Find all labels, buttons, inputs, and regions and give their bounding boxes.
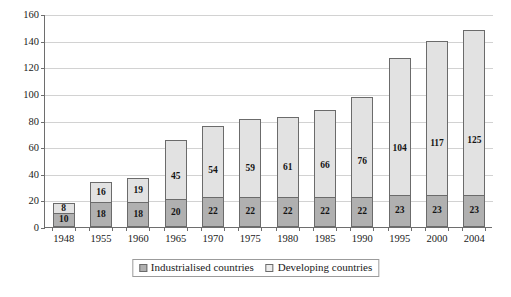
bar-group[interactable]: 76221990 — [351, 97, 373, 227]
bar-value-label: 23 — [395, 206, 405, 216]
y-axis-tick-label: 60 — [29, 143, 40, 154]
bar-segment-industrialised[interactable]: 22 — [351, 198, 373, 227]
x-axis-tick — [201, 227, 202, 231]
y-axis-tick-label: 80 — [29, 116, 40, 127]
legend-item[interactable]: Developing countries — [266, 262, 372, 273]
bar-value-label: 45 — [171, 172, 181, 182]
bar-segment-developing[interactable]: 16 — [90, 182, 112, 203]
bar-group[interactable]: 8101948 — [53, 203, 75, 227]
x-axis-tick — [462, 227, 463, 231]
bar-segment-industrialised[interactable]: 18 — [127, 203, 149, 227]
bar-segment-developing[interactable]: 8 — [53, 203, 75, 214]
bar-value-label: 20 — [171, 208, 181, 218]
bar-group[interactable]: 16181955 — [90, 182, 112, 227]
chart-legend: Industrialised countriesDeveloping count… — [132, 259, 379, 277]
x-axis-tick — [149, 227, 150, 231]
bar-segment-industrialised[interactable]: 10 — [53, 214, 75, 227]
x-axis-tick — [187, 227, 188, 231]
bar-segment-developing[interactable]: 76 — [351, 97, 373, 198]
bar-segment-developing[interactable]: 66 — [314, 110, 336, 198]
bar-group[interactable]: 59221975 — [239, 119, 261, 227]
bar-segment-developing[interactable]: 117 — [426, 41, 448, 197]
x-axis-tick — [313, 227, 314, 231]
bar-value-label: 117 — [430, 139, 444, 149]
bar-segment-developing[interactable]: 61 — [277, 117, 299, 198]
bar-segment-industrialised[interactable]: 22 — [314, 198, 336, 227]
bar-segment-developing[interactable]: 54 — [202, 126, 224, 198]
x-axis-tick — [485, 227, 486, 231]
bar-value-label: 22 — [208, 207, 218, 217]
legend-swatch-icon — [266, 264, 274, 272]
bar-group[interactable]: 104231995 — [389, 58, 411, 227]
bar-segment-developing[interactable]: 125 — [463, 30, 485, 196]
y-axis-tick — [41, 201, 45, 202]
bar-group[interactable]: 125232004 — [463, 30, 485, 227]
bar-value-label: 18 — [134, 210, 144, 220]
y-axis-tick-label: 20 — [29, 196, 40, 207]
legend-label: Industrialised countries — [151, 262, 254, 273]
y-axis-tick — [41, 148, 45, 149]
x-axis-tick — [89, 227, 90, 231]
bar-segment-developing[interactable]: 45 — [165, 140, 187, 200]
x-axis-tick-label: 1990 — [352, 234, 373, 245]
y-axis-tick — [41, 95, 45, 96]
bar-segment-industrialised[interactable]: 20 — [165, 200, 187, 227]
x-axis-tick-label: 1985 — [315, 234, 336, 245]
bar-value-label: 18 — [96, 210, 106, 220]
bar-segment-industrialised[interactable]: 23 — [463, 196, 485, 227]
x-axis-tick-label: 1960 — [128, 234, 149, 245]
bar-value-label: 8 — [61, 204, 66, 214]
y-axis-tick — [41, 15, 45, 16]
x-axis-tick — [261, 227, 262, 231]
bar-group[interactable]: 45201965 — [165, 140, 187, 227]
x-axis-tick — [448, 227, 449, 231]
x-axis-tick-label: 1965 — [165, 234, 186, 245]
x-axis-tick-label: 1995 — [389, 234, 410, 245]
x-axis-tick — [126, 227, 127, 231]
bar-group[interactable]: 54221970 — [202, 126, 224, 227]
bar-segment-industrialised[interactable]: 22 — [277, 198, 299, 227]
legend-label: Developing countries — [278, 262, 372, 273]
bar-segment-industrialised[interactable]: 23 — [426, 196, 448, 227]
y-axis-tick — [41, 122, 45, 123]
bar-value-label: 61 — [283, 163, 293, 173]
y-axis-tick — [41, 228, 45, 229]
bar-value-label: 23 — [470, 206, 480, 216]
x-axis-tick — [388, 227, 389, 231]
x-axis-tick — [164, 227, 165, 231]
x-axis-tick-label: 1980 — [277, 234, 298, 245]
x-axis-tick — [336, 227, 337, 231]
x-axis-tick — [299, 227, 300, 231]
bar-value-label: 54 — [208, 166, 218, 176]
x-axis-tick — [425, 227, 426, 231]
x-axis-tick — [350, 227, 351, 231]
x-axis-tick-label: 2004 — [464, 234, 485, 245]
plot-area: 020406080100120140160 810194816181955191… — [44, 15, 492, 228]
y-axis-tick-label: 100 — [23, 90, 39, 101]
gridline — [45, 15, 493, 16]
bar-group[interactable]: 66221985 — [314, 110, 336, 227]
bar-segment-developing[interactable]: 104 — [389, 58, 411, 196]
bar-value-label: 76 — [358, 157, 368, 167]
bar-segment-industrialised[interactable]: 23 — [389, 196, 411, 227]
x-axis-tick — [224, 227, 225, 231]
x-axis-tick-label: 1955 — [91, 234, 112, 245]
bar-segment-developing[interactable]: 19 — [127, 178, 149, 203]
x-axis-tick — [238, 227, 239, 231]
stacked-bar-chart: 020406080100120140160 810194816181955191… — [0, 0, 511, 297]
bar-group[interactable]: 19181960 — [127, 178, 149, 227]
bar-segment-industrialised[interactable]: 18 — [90, 203, 112, 227]
bar-group[interactable]: 117232000 — [426, 41, 448, 227]
bar-segment-developing[interactable]: 59 — [239, 119, 261, 198]
bar-segment-industrialised[interactable]: 22 — [239, 198, 261, 227]
bar-group[interactable]: 61221980 — [277, 117, 299, 227]
bar-value-label: 66 — [320, 161, 330, 171]
x-axis-tick-label: 1975 — [240, 234, 261, 245]
bar-segment-industrialised[interactable]: 22 — [202, 198, 224, 227]
bar-value-label: 22 — [283, 207, 293, 217]
bar-value-label: 125 — [467, 136, 481, 146]
legend-item[interactable]: Industrialised countries — [139, 262, 254, 273]
bar-value-label: 22 — [246, 207, 256, 217]
x-axis-tick — [112, 227, 113, 231]
bar-value-label: 10 — [59, 215, 69, 225]
